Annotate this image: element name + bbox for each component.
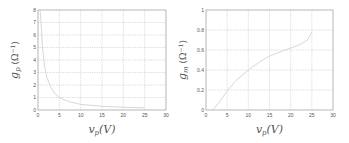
y-tick-label: 1 — [33, 94, 36, 100]
y-tick-label: 0 — [201, 107, 204, 113]
x-tick-label: 10 — [78, 112, 84, 118]
x-tick-label: 0 — [205, 112, 208, 118]
x-tick-label: 5 — [58, 112, 61, 118]
y-tick-label: 8 — [33, 7, 36, 13]
y-tick-label: 6 — [33, 32, 36, 38]
x-tick-label: 0 — [37, 112, 40, 118]
y-tick-label: 4 — [33, 57, 36, 63]
x-tick-label: 15 — [99, 112, 105, 118]
x-axis-label: vp(V) — [256, 123, 283, 137]
x-tick-label: 25 — [309, 112, 315, 118]
chart-gp: 051015202530012345678vp(V)gp (Ω−1) — [0, 0, 175, 143]
x-tick-label: 15 — [267, 112, 273, 118]
y-tick-label: 7 — [33, 19, 36, 25]
x-tick-label: 30 — [330, 112, 336, 118]
y-tick-label: 5 — [33, 44, 36, 50]
x-tick-label: 10 — [246, 112, 252, 118]
y-axis-label: gp (Ω−1) — [8, 41, 22, 79]
gp-plot: 051015202530012345678vp(V)gp (Ω−1) — [0, 0, 175, 143]
y-axis-label: gm (Ω−1) — [176, 40, 190, 80]
y-tick-label: 2 — [33, 82, 36, 88]
gm-plot: 05101520253000.20.40.60.81vp(V)gm (Ω−1) — [175, 0, 349, 143]
chart-gm: 05101520253000.20.40.60.81vp(V)gm (Ω−1) — [175, 0, 349, 143]
series-line — [40, 10, 145, 108]
x-tick-label: 25 — [142, 112, 148, 118]
y-tick-label: 1 — [201, 7, 204, 13]
y-tick-label: 0.2 — [197, 87, 204, 93]
y-tick-label: 0.8 — [197, 27, 204, 33]
x-tick-label: 5 — [226, 112, 229, 118]
x-tick-label: 20 — [121, 112, 127, 118]
y-tick-label: 0.4 — [197, 67, 204, 73]
y-tick-label: 0 — [33, 107, 36, 113]
x-tick-label: 20 — [288, 112, 294, 118]
x-tick-label: 30 — [163, 112, 169, 118]
y-tick-label: 0.6 — [197, 47, 204, 53]
x-axis-label: vp(V) — [88, 123, 115, 137]
y-tick-label: 3 — [33, 69, 36, 75]
